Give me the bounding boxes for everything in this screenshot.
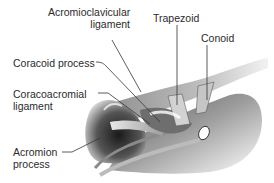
- label-coracoacromial-line2: ligament: [13, 100, 87, 112]
- label-acromioclavicular-ligament: Acromioclavicular ligament: [48, 6, 130, 30]
- label-coracoid-process: Coracoid process: [13, 57, 95, 69]
- label-acromion-process: Acromion process: [13, 146, 57, 170]
- label-coracoacromial-ligament: Coracoacromial ligament: [13, 88, 87, 112]
- leader-acromioclavicular: [112, 40, 141, 92]
- label-coracoacromial-line1: Coracoacromial: [13, 88, 87, 100]
- shoulder-ligament-diagram: Acromioclavicular ligament Trapezoid Con…: [0, 0, 274, 183]
- label-acromioclavicular-line1: Acromioclavicular: [48, 6, 130, 18]
- label-acromioclavicular-line2: ligament: [48, 18, 130, 30]
- label-acromion-line1: Acromion: [13, 146, 57, 158]
- label-trapezoid: Trapezoid: [153, 12, 199, 24]
- label-acromion-line2: process: [13, 158, 57, 170]
- label-conoid: Conoid: [201, 32, 234, 44]
